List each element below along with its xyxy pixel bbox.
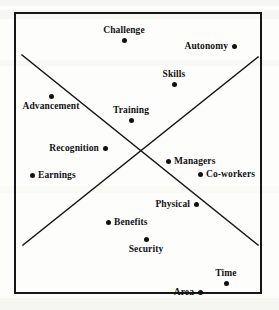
data-point-marker bbox=[224, 281, 229, 286]
data-point-marker bbox=[103, 146, 108, 151]
data-point-marker bbox=[122, 38, 127, 43]
data-point-marker bbox=[198, 172, 203, 177]
data-point-label: Advancement bbox=[22, 101, 79, 111]
data-point-label: Co-workers bbox=[206, 169, 255, 179]
data-point-marker bbox=[198, 290, 203, 295]
scan-artifact bbox=[0, 0, 279, 6]
scan-artifact bbox=[0, 298, 279, 310]
data-point-label: Managers bbox=[174, 156, 215, 166]
data-point-label: Training bbox=[113, 105, 149, 115]
data-point-marker bbox=[30, 173, 35, 178]
data-point-marker bbox=[166, 159, 171, 164]
data-point-marker bbox=[144, 237, 149, 242]
data-point-label: Security bbox=[129, 244, 164, 254]
data-point-marker bbox=[106, 220, 111, 225]
perceptual-map-figure: ChallengeAutonomySkillsAdvancementTraini… bbox=[0, 0, 279, 310]
data-point-label: Time bbox=[215, 268, 236, 278]
data-point-label: Recognition bbox=[49, 143, 99, 153]
data-point-marker bbox=[129, 118, 134, 123]
data-point-label: Physical bbox=[155, 199, 190, 209]
data-point-label: Autonomy bbox=[184, 41, 228, 51]
data-point-label: Challenge bbox=[103, 25, 145, 35]
data-point-label: Skills bbox=[163, 69, 186, 79]
data-point-label: Earnings bbox=[38, 170, 76, 180]
data-point-marker bbox=[232, 44, 237, 49]
data-point-marker bbox=[172, 82, 177, 87]
data-point-label: Benefits bbox=[114, 217, 148, 227]
data-point-marker bbox=[49, 94, 54, 99]
data-point-label: Area bbox=[174, 287, 194, 297]
data-point-marker bbox=[194, 202, 199, 207]
